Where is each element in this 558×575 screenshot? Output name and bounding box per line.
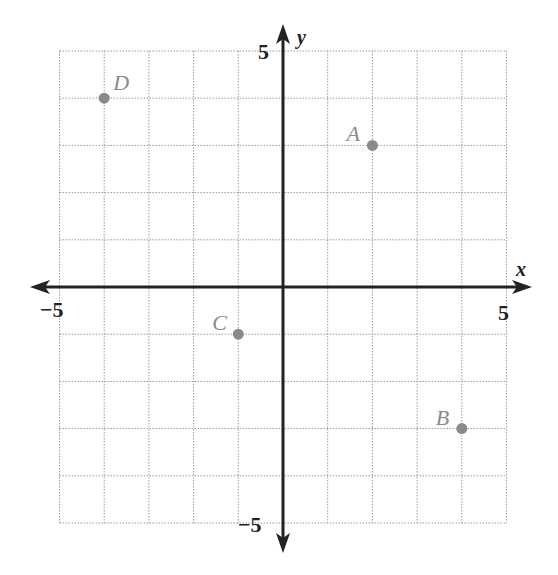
point-b: B	[436, 405, 468, 435]
coordinate-plane: x y −5 5 5 −5 ABCD	[0, 0, 558, 575]
point-marker	[99, 93, 110, 104]
point-marker	[456, 423, 467, 434]
y-axis-label: y	[295, 26, 306, 49]
x-tick-label-max: 5	[498, 300, 509, 325]
x-tick-label-min: −5	[40, 297, 64, 322]
point-label: C	[212, 310, 227, 335]
point-marker	[233, 329, 244, 340]
point-label: D	[112, 70, 129, 95]
point-marker	[367, 140, 378, 151]
y-tick-label-max: 5	[258, 39, 269, 64]
point-label: B	[436, 405, 449, 430]
x-axis-label: x	[515, 258, 526, 280]
point-label: A	[344, 121, 360, 146]
point-c: C	[212, 310, 244, 340]
y-tick-label-min: −5	[238, 512, 262, 537]
